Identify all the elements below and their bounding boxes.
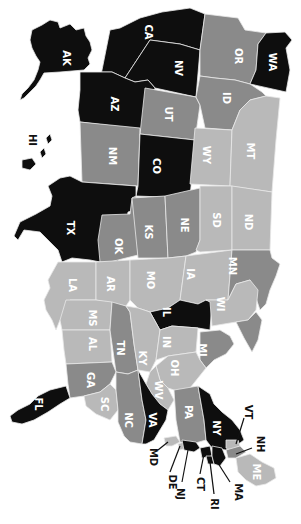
- label-AL: AL: [87, 337, 98, 352]
- label-VA: VA: [147, 413, 158, 428]
- label-IL: IL: [161, 307, 172, 318]
- label-CT: CT: [195, 477, 206, 491]
- label-WY: WY: [201, 146, 212, 165]
- state-MS[interactable]: [60, 300, 112, 330]
- label-WV: WV: [153, 381, 164, 400]
- label-IA: IA: [185, 268, 196, 280]
- label-GA: GA: [85, 372, 96, 388]
- label-NE: NE: [179, 217, 190, 232]
- label-VT: VT: [243, 405, 254, 420]
- label-MS: MS: [87, 309, 98, 326]
- label-AK: AK: [61, 50, 72, 67]
- label-MI: MI: [197, 343, 208, 357]
- label-SD: SD: [211, 212, 222, 228]
- label-NM: NM: [107, 147, 118, 165]
- label-CO: CO: [151, 158, 162, 174]
- label-NC: NC: [123, 412, 134, 428]
- label-NV: NV: [173, 60, 184, 76]
- label-FL: FL: [33, 397, 44, 411]
- label-LA: LA: [67, 278, 78, 292]
- label-NH: NH: [255, 436, 266, 453]
- label-AR: AR: [105, 276, 116, 292]
- label-KY: KY: [137, 351, 148, 367]
- label-MO: MO: [145, 271, 156, 289]
- label-CA: CA: [143, 24, 154, 39]
- label-PA: PA: [183, 405, 194, 419]
- leader-line-NJ: [182, 450, 188, 482]
- label-ID: ID: [221, 92, 232, 104]
- leader-line-MA: [216, 460, 230, 482]
- label-AZ: AZ: [109, 97, 120, 112]
- label-MD: MD: [148, 448, 159, 466]
- label-MN: MN: [227, 257, 238, 275]
- label-MT: MT: [245, 143, 256, 160]
- leader-line-RI: [210, 462, 214, 494]
- label-UT: UT: [163, 107, 174, 122]
- label-IN: IN: [161, 336, 172, 348]
- label-WI: WI: [215, 297, 226, 312]
- label-ME: ME: [251, 464, 262, 481]
- label-OK: OK: [113, 238, 124, 256]
- leader-line-DE: [170, 446, 180, 472]
- label-NJ: NJ: [175, 488, 186, 500]
- label-MA: MA: [233, 483, 244, 501]
- state-MD[interactable]: [164, 436, 180, 446]
- label-TX: TX: [65, 221, 76, 236]
- label-OR: OR: [233, 48, 244, 65]
- label-WA: WA: [267, 53, 278, 72]
- label-SC: SC: [99, 397, 110, 412]
- us-choropleth-map: AK HI CA NV OR WA AZ UT ID NM CO WY MT T…: [0, 0, 301, 524]
- label-HI: HI: [27, 134, 38, 146]
- label-KS: KS: [143, 225, 154, 240]
- state-CO[interactable]: [136, 134, 195, 198]
- label-NY: NY: [211, 420, 222, 436]
- label-RI: RI: [209, 498, 220, 509]
- label-ND: ND: [243, 214, 254, 231]
- label-TN: TN: [115, 340, 126, 355]
- label-OH: OH: [169, 360, 180, 377]
